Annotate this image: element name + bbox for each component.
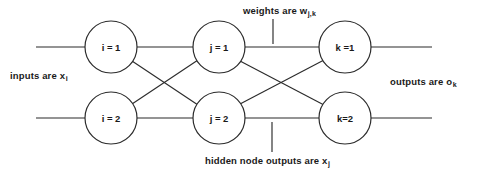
edge-j2-k1 xyxy=(240,60,324,104)
node-label-i2: i = 2 xyxy=(102,113,121,124)
node-label-k1: k =1 xyxy=(336,42,355,53)
node-k1[interactable]: k =1 xyxy=(319,21,371,73)
leader-lines xyxy=(272,19,273,152)
node-label-k2: k=2 xyxy=(337,113,353,124)
annotation-weights-text: weights are w xyxy=(243,5,307,16)
annotation-outputs: outputs are ok xyxy=(390,76,456,87)
annotation-inputs-subscript: i xyxy=(66,75,68,82)
annotation-hidden-node-outputs: hidden node outputs are xj xyxy=(205,155,330,166)
annotation-outputs-text: outputs are o xyxy=(390,76,452,87)
annotation-hidden-text: hidden node outputs are x xyxy=(205,155,328,166)
annotation-outputs-subscript: k xyxy=(453,81,457,88)
node-k2[interactable]: k=2 xyxy=(319,92,371,144)
edge-i2-j1 xyxy=(132,60,198,104)
edge-i1-j2 xyxy=(132,61,198,105)
node-label-j2: j = 2 xyxy=(209,113,229,124)
annotation-weights-subscript: j,k xyxy=(308,10,316,17)
annotation-weights: weights are wj,k xyxy=(243,5,315,16)
node-label-i1: i = 1 xyxy=(102,42,121,53)
annotation-inputs: inputs are xi xyxy=(10,70,67,81)
node-i1[interactable]: i = 1 xyxy=(85,21,137,73)
node-i2[interactable]: i = 2 xyxy=(85,92,137,144)
neural-network-diagram: i = 1 i = 2 j = 1 j = 2 k =1 k=2 weights… xyxy=(0,0,481,179)
node-label-j1: j = 1 xyxy=(209,42,229,53)
edges-hidden-to-output xyxy=(240,47,324,118)
edge-j1-k2 xyxy=(240,61,324,105)
annotation-hidden-subscript: j xyxy=(328,160,330,167)
node-j2[interactable]: j = 2 xyxy=(193,92,245,144)
input-stubs xyxy=(36,47,85,118)
edges-input-to-hidden xyxy=(132,47,198,118)
node-j1[interactable]: j = 1 xyxy=(193,21,245,73)
annotation-inputs-text: inputs are x xyxy=(10,70,65,81)
network-graphics: i = 1 i = 2 j = 1 j = 2 k =1 k=2 xyxy=(0,0,481,179)
